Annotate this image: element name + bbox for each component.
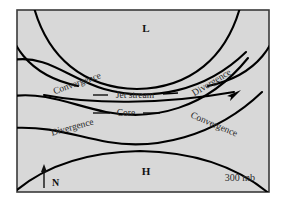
diagram-canvas: L H Convergence Divergence Divergence Co…	[0, 0, 287, 209]
pressure-level-label: 300 mb	[225, 172, 255, 183]
jet-stream-diagram: L H Convergence Divergence Divergence Co…	[0, 0, 287, 209]
low-pressure-label: L	[142, 22, 149, 34]
label-jet-stream: Jet stream	[116, 90, 155, 100]
high-pressure-label: H	[142, 165, 151, 177]
label-core: Core	[117, 108, 135, 118]
north-label: N	[52, 177, 60, 188]
